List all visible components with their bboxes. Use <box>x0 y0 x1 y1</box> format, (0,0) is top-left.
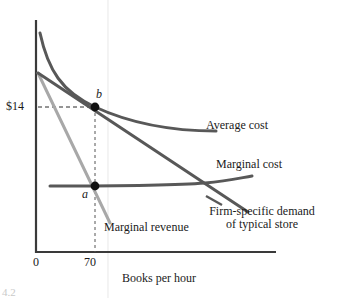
figure-caption: 4.2 <box>2 286 16 298</box>
point-a-marker <box>91 182 100 191</box>
firm-demand-label: Firm-specific demand of typical store <box>202 205 322 232</box>
chart-background <box>0 0 352 298</box>
firm-demand-label-line1: Firm-specific demand <box>209 204 315 218</box>
marginal-cost-label: Marginal cost <box>216 158 282 171</box>
x-axis-tick-zero: 0 <box>33 256 39 269</box>
chart-canvas <box>0 0 352 298</box>
point-b-label: b <box>96 88 102 101</box>
economics-chart: $14 0 70 a b Average cost Marginal cost … <box>0 0 352 298</box>
firm-demand-label-line2: of typical store <box>226 217 298 231</box>
point-a-label: a <box>82 188 88 201</box>
x-axis-tick-seventy: 70 <box>84 256 96 269</box>
price-axis-label: $14 <box>6 100 24 113</box>
point-b-marker <box>91 103 100 112</box>
marginal-revenue-label: Marginal revenue <box>104 221 189 234</box>
x-axis-title: Books per hour <box>122 272 196 285</box>
average-cost-label: Average cost <box>206 119 268 132</box>
